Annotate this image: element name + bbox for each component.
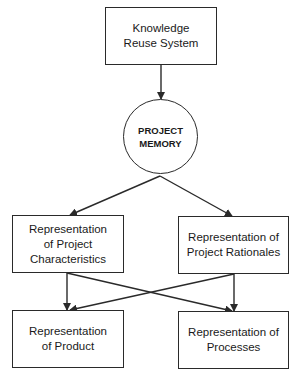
node-label: Representation of Project Rationales: [187, 230, 280, 260]
node-label: PROJECT MEMORY: [138, 124, 183, 150]
node-label: Representation of Project Characteristic…: [29, 222, 107, 267]
edge-memory-to-characteristics: [70, 176, 160, 215]
node-representation-of-processes: Representation of Processes: [178, 311, 289, 369]
project-memory-diagram: Knowledge Reuse System PROJECT MEMORY Re…: [0, 0, 304, 378]
node-project-memory: PROJECT MEMORY: [123, 99, 198, 174]
node-label: Knowledge Reuse System: [124, 21, 199, 51]
edge-memory-to-rationales: [160, 176, 232, 216]
node-project-rationales: Representation of Project Rationales: [178, 216, 289, 274]
node-knowledge-reuse-system: Knowledge Reuse System: [105, 7, 217, 65]
node-label: Representation of Product: [29, 324, 107, 354]
node-representation-of-product: Representation of Product: [12, 310, 124, 368]
node-project-characteristics: Representation of Project Characteristic…: [12, 215, 124, 273]
node-label: Representation of Processes: [188, 325, 279, 355]
